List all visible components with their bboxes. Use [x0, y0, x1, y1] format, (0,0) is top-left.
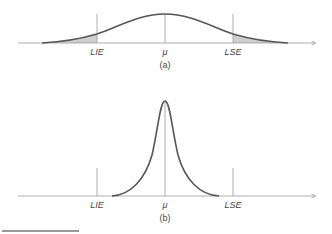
label-mu: μ — [162, 47, 168, 57]
diagram-canvas: LIE μ LSE (a) LIE μ LSE (b) — [0, 0, 332, 234]
label-mu: μ — [162, 200, 168, 210]
label-lse: LSE — [224, 200, 242, 210]
label-lie: LIE — [90, 47, 105, 57]
label-lie: LIE — [90, 200, 105, 210]
panel-b: LIE μ LSE (b) — [18, 101, 315, 223]
normal-curve-narrow — [112, 101, 219, 196]
caption-a: (a) — [160, 60, 171, 70]
label-lse: LSE — [224, 47, 242, 57]
caption-b: (b) — [160, 213, 171, 223]
panel-a: LIE μ LSE (a) — [18, 14, 315, 70]
